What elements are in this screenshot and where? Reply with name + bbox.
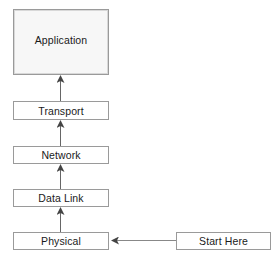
- layer-physical-label: Physical: [41, 235, 81, 247]
- layer-network-label: Network: [41, 149, 80, 161]
- layer-data-link: Data Link: [13, 189, 109, 207]
- layer-transport: Transport: [13, 101, 109, 120]
- layer-physical: Physical: [13, 232, 109, 250]
- layer-application-label: Application: [35, 34, 87, 46]
- layer-network: Network: [13, 146, 109, 164]
- start-here-label: Start Here: [199, 235, 248, 247]
- layer-data-link-label: Data Link: [38, 192, 83, 204]
- layer-application: Application: [13, 9, 109, 75]
- start-here-box: Start Here: [176, 232, 271, 250]
- layer-transport-label: Transport: [38, 105, 83, 117]
